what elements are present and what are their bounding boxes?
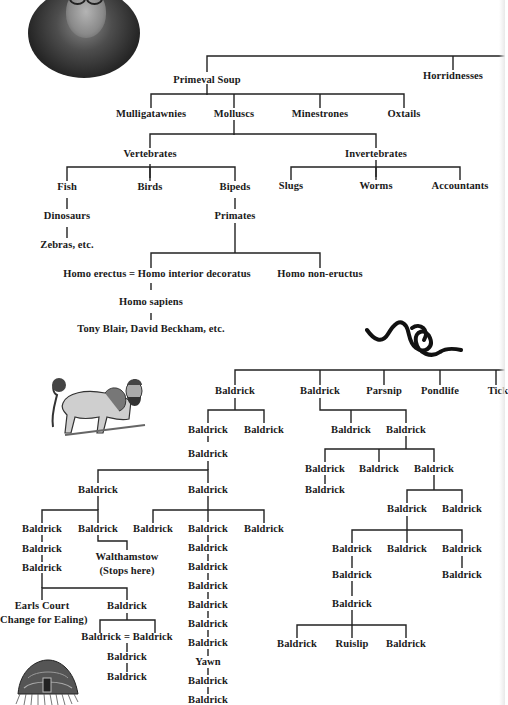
node-baldrick: Baldrick xyxy=(188,599,228,611)
node-baldrick: Baldrick xyxy=(107,671,147,683)
node-baldrick: Baldrick xyxy=(331,424,371,436)
node-baldrick: Baldrick xyxy=(387,543,427,555)
node-baldrick: Baldrick xyxy=(359,463,399,475)
node-horridnesses: Horridnesses xyxy=(423,70,483,82)
node-baldrick: Baldrick xyxy=(188,542,228,554)
node-baldrick: Baldrick xyxy=(442,503,482,515)
node-baldrick: Baldrick xyxy=(332,543,372,555)
node-baldrick: Baldrick xyxy=(107,600,147,612)
node-baldrick-marriage: Baldrick = Baldrick xyxy=(81,631,172,643)
node-oxtails: Oxtails xyxy=(388,108,421,120)
node-primates: Primates xyxy=(214,210,255,222)
node-worms: Worms xyxy=(359,180,392,192)
node-baldrick-top-left: Baldrick xyxy=(215,385,255,397)
node-pondlife: Pondlife xyxy=(421,385,459,397)
node-slugs: Slugs xyxy=(279,180,303,192)
node-baldrick: Baldrick xyxy=(386,424,426,436)
node-baldrick: Baldrick xyxy=(442,569,482,581)
node-accountants: Accountants xyxy=(431,180,488,192)
node-minestrones: Minestrones xyxy=(292,108,348,120)
node-baldrick-top-right: Baldrick xyxy=(300,385,340,397)
node-baldrick: Baldrick xyxy=(305,463,345,475)
node-ruislip: Ruislip xyxy=(336,638,369,650)
node-dinosaurs: Dinosaurs xyxy=(44,210,90,222)
node-baldrick: Baldrick xyxy=(188,675,228,687)
node-baldrick: Baldrick xyxy=(386,638,426,650)
node-yawn: Yawn xyxy=(195,656,221,668)
node-molluscs: Molluscs xyxy=(214,108,254,120)
node-baldrick: Baldrick xyxy=(244,523,284,535)
node-baldrick: Baldrick xyxy=(332,598,372,610)
node-baldrick: Baldrick xyxy=(188,424,228,436)
node-walthamstow: Walthamstow xyxy=(96,551,159,563)
node-earls-court: Earls Court xyxy=(15,600,69,612)
node-baldrick: Baldrick xyxy=(107,651,147,663)
node-vertebrates: Vertebrates xyxy=(123,148,176,160)
node-baldrick: Baldrick xyxy=(188,484,228,496)
node-baldrick: Baldrick xyxy=(188,448,228,460)
node-birds: Birds xyxy=(137,181,162,193)
node-homo-erectus: Homo erectus = Homo interior decoratus xyxy=(63,268,251,280)
node-baldrick: Baldrick xyxy=(305,484,345,496)
node-tony-blair-david-beckham: Tony Blair, David Beckham, etc. xyxy=(77,323,224,335)
node-primeval-soup: Primeval Soup xyxy=(173,74,241,86)
node-stops-here: (Stops here) xyxy=(100,565,155,577)
node-baldrick: Baldrick xyxy=(188,637,228,649)
node-zebras: Zebras, etc. xyxy=(40,239,93,251)
node-baldrick: Baldrick xyxy=(188,561,228,573)
node-fish: Fish xyxy=(57,181,77,193)
node-parsnip: Parsnip xyxy=(366,385,402,397)
node-bipeds: Bipeds xyxy=(220,181,251,193)
node-baldrick: Baldrick xyxy=(22,543,62,555)
node-invertebrates: Invertebrates xyxy=(345,148,407,160)
node-homo-non-eructus: Homo non-eructus xyxy=(277,268,362,280)
node-mulligatawnies: Mulligatawnies xyxy=(116,108,186,120)
node-baldrick: Baldrick xyxy=(414,463,454,475)
page-edge-shadow xyxy=(499,0,505,705)
node-baldrick: Baldrick xyxy=(188,618,228,630)
node-baldrick: Baldrick xyxy=(277,638,317,650)
node-homo-sapiens: Homo sapiens xyxy=(119,296,183,308)
node-baldrick: Baldrick xyxy=(22,562,62,574)
node-baldrick: Baldrick xyxy=(78,523,118,535)
node-baldrick: Baldrick xyxy=(188,694,228,705)
node-baldrick: Baldrick xyxy=(387,503,427,515)
node-baldrick: Baldrick xyxy=(78,484,118,496)
node-baldrick: Baldrick xyxy=(133,523,173,535)
node-baldrick: Baldrick xyxy=(244,424,284,436)
node-baldrick: Baldrick xyxy=(22,523,62,535)
node-baldrick: Baldrick xyxy=(332,569,372,581)
node-baldrick: Baldrick xyxy=(442,543,482,555)
node-baldrick: Baldrick xyxy=(188,580,228,592)
node-change-for-ealing: (Change for Ealing) xyxy=(0,614,87,626)
node-baldrick: Baldrick xyxy=(188,523,228,535)
